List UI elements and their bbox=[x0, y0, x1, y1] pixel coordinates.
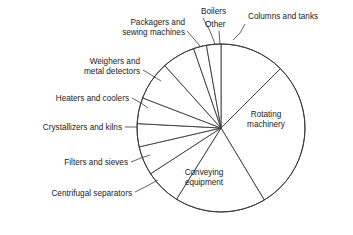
pie-slice-label-line: Other bbox=[205, 20, 226, 29]
leader-line bbox=[233, 24, 245, 40]
pie-slice-label-line: Crystallizers and kilns bbox=[43, 123, 122, 132]
pie-slice-label-line: sewing machines bbox=[122, 28, 185, 37]
pie-slice-label-line: Rotating bbox=[251, 110, 282, 119]
leader-line bbox=[219, 31, 220, 44]
pie-slice-label-line: machinery bbox=[247, 120, 286, 129]
pie-slice-label: Packagers andsewing machines bbox=[122, 18, 185, 37]
pie-chart-svg: Columns and tanks — 12.5%Rotating machin… bbox=[0, 0, 353, 235]
pie-slice-label: Filters and sieves bbox=[64, 158, 128, 167]
pie-slice-label: Crystallizers and kilns bbox=[43, 123, 122, 132]
pie-slice-label: Conveyingequipment bbox=[185, 168, 224, 187]
pie-slice-label-line: Filters and sieves bbox=[64, 158, 128, 167]
pie-slice-label-line: metal detectors bbox=[84, 67, 140, 76]
leader-line bbox=[135, 180, 158, 192]
pie-slice-label: Rotatingmachinery bbox=[247, 110, 286, 129]
pie-slice-label: Other bbox=[205, 20, 226, 29]
pie-slice-label: Columns and tanks bbox=[248, 12, 318, 21]
pie-slice-label: Weighers andmetal detectors bbox=[84, 57, 140, 76]
pie-slice-label-line: Boilers bbox=[201, 7, 226, 16]
pie-slice-label-line: Columns and tanks bbox=[248, 12, 318, 21]
pie-slice-label: Centrifugal separators bbox=[51, 189, 132, 198]
pie-slice-label: Heaters and coolers bbox=[56, 94, 129, 103]
pie-slice-label-line: Heaters and coolers bbox=[56, 94, 129, 103]
pie-slice-label-line: Weighers and bbox=[90, 57, 141, 66]
pie-slice-label-line: equipment bbox=[185, 178, 224, 187]
pie-slice-label-line: Centrifugal separators bbox=[51, 189, 132, 198]
pie-slice-label-line: Conveying bbox=[185, 168, 224, 177]
leader-line bbox=[187, 31, 200, 46]
pie-slice-label-line: Packagers and bbox=[130, 18, 185, 27]
pie-slice-label: Boilers bbox=[201, 7, 226, 16]
pie-chart-figure: Columns and tanks — 12.5%Rotating machin… bbox=[0, 0, 353, 235]
